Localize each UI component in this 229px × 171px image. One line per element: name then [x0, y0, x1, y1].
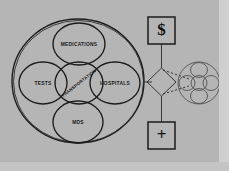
- node-tests-label: TESTS: [34, 81, 51, 86]
- plus-sign-icon: +: [157, 125, 167, 144]
- node-hospitals-label: HOSPITALS: [100, 81, 130, 86]
- node-mds[interactable]: MDS: [53, 101, 103, 143]
- node-transportation[interactable]: TRANSPORTATION: [55, 62, 103, 104]
- connector-dashed-upper: [163, 70, 189, 79]
- frame-bottom-strip: [0, 162, 229, 171]
- frame-right-strip: [219, 0, 229, 171]
- dollar-sign-icon: $: [157, 20, 166, 39]
- mirror-node-left: [179, 76, 195, 91]
- mirror-cluster[interactable]: [178, 62, 220, 104]
- diagram-canvas: MEDICATIONS TESTS HOSPITALS MDS TRANSPOR…: [0, 0, 229, 171]
- node-transportation-label: TRANSPORTATION: [61, 68, 98, 98]
- dollar-box[interactable]: $: [148, 17, 175, 44]
- mirror-cluster-outer-circle: [178, 62, 220, 104]
- node-hospitals[interactable]: HOSPITALS: [90, 62, 140, 104]
- mirror-node-right: [203, 76, 219, 91]
- main-cluster: MEDICATIONS TESTS HOSPITALS MDS TRANSPOR…: [12, 19, 144, 143]
- node-medications-label: MEDICATIONS: [61, 42, 98, 47]
- plus-box[interactable]: +: [148, 122, 175, 149]
- node-mds-label: MDS: [72, 120, 84, 125]
- node-tests[interactable]: TESTS: [19, 62, 67, 104]
- diagram-stage: MEDICATIONS TESTS HOSPITALS MDS TRANSPOR…: [0, 0, 219, 162]
- node-medications[interactable]: MEDICATIONS: [53, 23, 105, 65]
